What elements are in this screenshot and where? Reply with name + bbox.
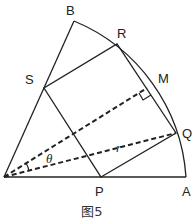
figure-caption: 图5: [81, 204, 102, 219]
radius-ob: [4, 21, 74, 177]
label-s: S: [25, 72, 34, 87]
right-angle-marker: [139, 93, 151, 100]
label-q: Q: [182, 126, 192, 141]
label-m: M: [158, 71, 169, 86]
dashed-om: [4, 88, 147, 177]
rectangle-pqrs: [44, 44, 176, 177]
angle-arc-theta: [26, 163, 29, 171]
label-b: B: [66, 3, 75, 18]
label-r: R: [117, 26, 126, 41]
label-a: A: [182, 184, 191, 199]
label-p: P: [95, 184, 104, 199]
label-theta: θ: [46, 151, 53, 166]
sector-diagram: B R S M Q P A θ r 图5: [0, 0, 195, 220]
dashed-oq: [4, 133, 176, 177]
